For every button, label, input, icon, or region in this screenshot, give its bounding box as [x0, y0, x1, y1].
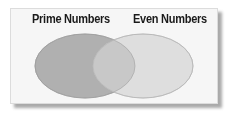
label-even-numbers: Even Numbers [133, 12, 207, 26]
label-prime-numbers: Prime Numbers [32, 12, 110, 26]
